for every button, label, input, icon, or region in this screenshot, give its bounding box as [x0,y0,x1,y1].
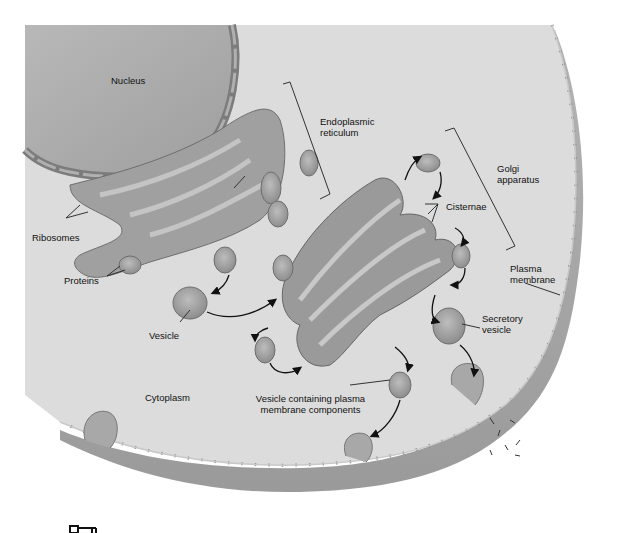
label-sv-line2: vesicle [482,324,523,335]
label-cytoplasm: Cytoplasm [145,392,190,403]
label-golgi-line2: apparatus [497,174,539,185]
label-nucleus: Nucleus [111,75,145,86]
label-pm-line2: membrane [510,274,555,285]
label-cisternae: Cisternae [446,201,487,212]
label-secretory-vesicle: Secretory vesicle [482,313,523,335]
label-golgi-line1: Golgi [497,163,539,174]
label-ribosomes: Ribosomes [32,232,80,243]
label-pm-line1: Plasma [510,263,555,274]
cell-diagram: Nucleus Endoplasmic reticulum Golgi appa… [0,0,621,533]
label-plasma-membrane: Plasma membrane [510,263,555,285]
label-golgi-apparatus: Golgi apparatus [497,163,539,185]
label-er-line2: reticulum [320,127,374,138]
label-vesicle-plasma-membrane-components: Vesicle containing plasma membrane compo… [243,393,378,415]
label-vesicle: Vesicle [149,330,179,341]
label-vpm-line2: membrane components [243,404,378,415]
label-proteins: Proteins [64,275,99,286]
label-endoplasmic-reticulum: Endoplasmic reticulum [320,116,374,138]
key-icon [70,526,96,533]
label-er-line1: Endoplasmic [320,116,374,127]
label-sv-line1: Secretory [482,313,523,324]
label-vpm-line1: Vesicle containing plasma [243,393,378,404]
